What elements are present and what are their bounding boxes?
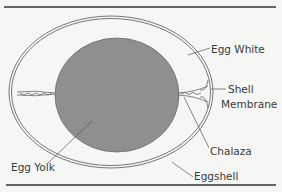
chalaza-right [178, 86, 208, 102]
shell-membrane [200, 80, 208, 108]
egg-yolk [55, 38, 179, 152]
label-membrane: Membrane [221, 98, 277, 110]
leader-chalaza [184, 97, 209, 148]
label-chalaza: Chalaza [210, 145, 252, 157]
label-eggshell: Eggshell [194, 170, 238, 182]
chalaza-left [17, 91, 55, 96]
label-egg-yolk: Egg Yolk [11, 161, 56, 173]
egg-diagram: Egg White Shell Membrane Chalaza Egg Yol… [0, 0, 282, 192]
label-egg-white: Egg White [211, 43, 265, 55]
label-shell: Shell [228, 83, 254, 95]
leader-eggshell [172, 162, 193, 177]
